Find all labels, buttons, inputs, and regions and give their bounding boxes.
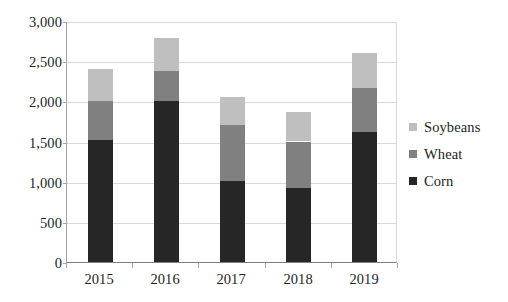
x-axis: 20152016201720182019 — [66, 271, 397, 295]
x-axis-tickmark — [66, 263, 67, 268]
legend-swatch-corn-icon — [409, 177, 417, 185]
x-axis-tickmark — [397, 263, 398, 268]
legend-label: Wheat — [424, 146, 462, 162]
y-axis: 05001,0001,5002,0002,5003,000 — [0, 0, 62, 302]
bar-segment-2018-soybeans — [286, 112, 311, 142]
bar-segment-2019-wheat — [352, 88, 377, 131]
bar-segment-2016-wheat — [154, 71, 179, 102]
legend-entry-corn[interactable]: Corn — [409, 167, 508, 194]
x-axis-tick-label-2017: 2017 — [198, 271, 264, 287]
y-axis-tickmark — [63, 183, 67, 184]
x-axis-tick-label-2019: 2019 — [331, 271, 397, 287]
x-axis-tick-label-2016: 2016 — [132, 271, 198, 287]
y-axis-tick-label: 2,500 — [0, 55, 62, 70]
y-axis-tick-label: 2,000 — [0, 95, 62, 110]
y-axis-tickmark — [63, 223, 67, 224]
y-axis-tickmark — [63, 143, 67, 144]
x-axis-tickmark — [331, 263, 332, 268]
bar-group-2017 — [220, 21, 245, 262]
bar-segment-2018-wheat — [286, 142, 311, 189]
bar-segment-2015-corn — [88, 140, 113, 262]
bar-segment-2015-soybeans — [88, 69, 113, 101]
bar-segment-2017-wheat — [220, 125, 245, 180]
legend-entry-soybeans[interactable]: Soybeans — [409, 113, 508, 140]
x-axis-tick-label-2015: 2015 — [66, 271, 132, 287]
x-axis-tickmark — [198, 263, 199, 268]
y-axis-tickmark — [63, 22, 67, 23]
x-axis-tick-label-2018: 2018 — [265, 271, 331, 287]
stacked-bar-chart: 05001,0001,5002,0002,5003,000 2015201620… — [0, 0, 508, 302]
bar-segment-2017-corn — [220, 181, 245, 262]
legend-label: Soybeans — [424, 119, 480, 135]
x-axis-tickmark — [132, 263, 133, 268]
x-axis-tickmark — [265, 263, 266, 268]
bar-segment-2017-soybeans — [220, 97, 245, 126]
y-axis-tickmark — [63, 62, 67, 63]
y-axis-tick-label: 3,000 — [0, 15, 62, 30]
bar-segment-2015-wheat — [88, 101, 113, 140]
y-axis-tick-label: 1,500 — [0, 135, 62, 150]
y-axis-tick-label: 1,000 — [0, 175, 62, 190]
y-axis-tick-label: 500 — [0, 216, 62, 231]
y-axis-tickmark — [63, 102, 67, 103]
bar-group-2018 — [286, 21, 311, 262]
bar-segment-2016-corn — [154, 101, 179, 262]
bar-segment-2019-corn — [352, 132, 377, 262]
bar-segment-2018-corn — [286, 188, 311, 262]
bar-group-2016 — [154, 21, 179, 262]
legend-entry-wheat[interactable]: Wheat — [409, 140, 508, 167]
legend-swatch-soybeans-icon — [409, 123, 417, 131]
y-axis-tick-label: 0 — [0, 256, 62, 271]
plot-area — [66, 22, 397, 263]
legend-label: Corn — [424, 173, 453, 189]
legend-swatch-wheat-icon — [409, 150, 417, 158]
chart-legend: SoybeansWheatCorn — [409, 113, 508, 194]
x-axis-tickmarks — [66, 263, 397, 269]
bar-group-2015 — [88, 21, 113, 262]
bar-segment-2019-soybeans — [352, 53, 377, 88]
bar-segment-2016-soybeans — [154, 38, 179, 71]
bar-group-2019 — [352, 21, 377, 262]
